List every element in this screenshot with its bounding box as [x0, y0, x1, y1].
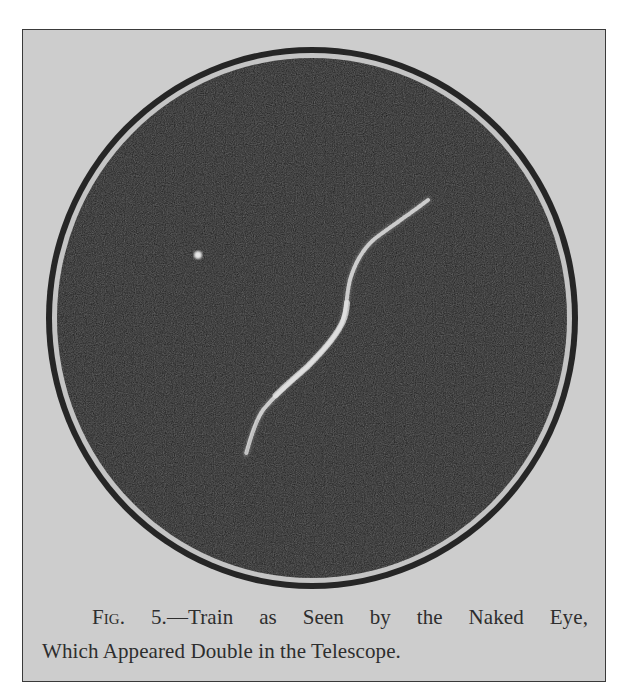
- star: [194, 251, 202, 259]
- caption-line-2: Which Appeared Double in the Telescope.: [42, 634, 588, 668]
- telescope-field-illustration: [0, 0, 636, 699]
- night-sky-field: [57, 58, 567, 578]
- caption-line-1-text: —Train as Seen by the Naked Eye,: [167, 605, 588, 629]
- figure-label: Fig. 5.: [92, 605, 167, 629]
- caption-line-1: Fig. 5.—Train as Seen by the Naked Eye,: [42, 600, 588, 634]
- figure-caption: Fig. 5.—Train as Seen by the Naked Eye, …: [42, 600, 588, 668]
